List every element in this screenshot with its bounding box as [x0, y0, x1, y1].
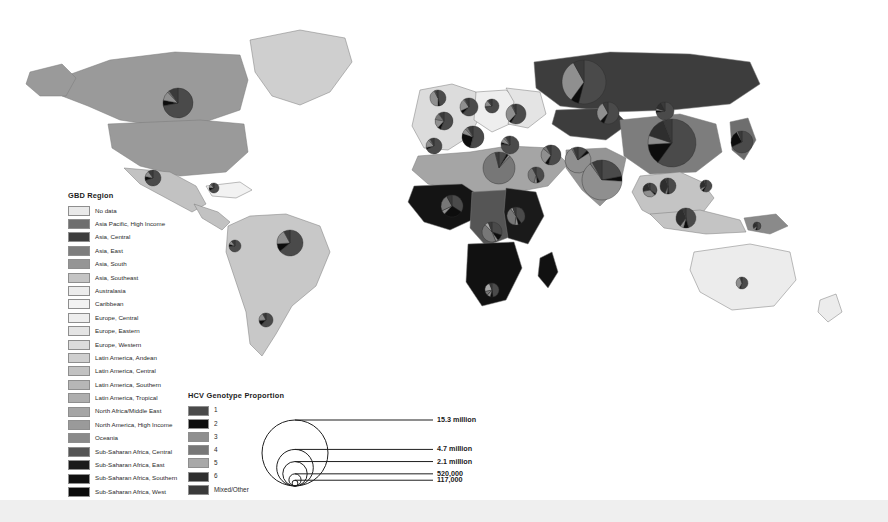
gbd-region-legend: GBD Region No dataAsia Pacific, High Inc…: [68, 191, 200, 499]
gbd-legend-label: Caribbean: [95, 301, 124, 307]
gbd-legend-item: Latin America, Tropical: [68, 391, 200, 404]
country-pie-chart: [460, 98, 478, 116]
country-pie-chart: [562, 60, 606, 104]
bubble-size-legend: 15.3 million4.7 million2.1 million520,00…: [255, 398, 495, 490]
gbd-legend-label: North America, High Income: [95, 422, 172, 428]
hcv-legend-swatch: [188, 419, 209, 429]
country-pie-chart: [676, 208, 696, 228]
gbd-legend-swatch: [68, 340, 90, 350]
hcv-legend-label: 3: [214, 434, 218, 440]
country-pie-chart: [656, 102, 674, 120]
gbd-legend-swatch: [68, 380, 90, 390]
country-pie-chart: [426, 138, 442, 154]
gbd-legend-item: Latin America, Andean: [68, 351, 200, 364]
gbd-legend-label: Latin America, Tropical: [95, 395, 158, 401]
gbd-legend-label: Asia Pacific, High Income: [95, 221, 165, 227]
hcv-legend-swatch: [188, 472, 209, 482]
gbd-legend-item: Latin America, Central: [68, 365, 200, 378]
gbd-legend-swatch: [68, 286, 90, 296]
gbd-legend-item: Asia Pacific, High Income: [68, 217, 200, 230]
gbd-legend-item: Asia, Central: [68, 231, 200, 244]
gbd-legend-item: Europe, Western: [68, 338, 200, 351]
country-pie-chart: [700, 180, 712, 192]
country-pie-chart: [660, 178, 676, 194]
gbd-legend-label: Latin America, Central: [95, 368, 156, 374]
gbd-legend-item: Europe, Eastern: [68, 325, 200, 338]
country-pie-chart: [582, 160, 622, 200]
country-pie-chart: [209, 183, 219, 193]
gbd-legend-item: Sub-Saharan Africa, Central: [68, 445, 200, 458]
gbd-legend-label: Asia, East: [95, 248, 123, 254]
gbd-legend-label: North Africa/Middle East: [95, 408, 161, 414]
hcv-legend-label: Mixed/Other: [214, 487, 249, 493]
gbd-legend-item: Oceania: [68, 432, 200, 445]
gbd-legend-label: Latin America, Andean: [95, 355, 157, 361]
hcv-legend-label: 2: [214, 421, 218, 427]
gbd-legend-item: Sub-Saharan Africa, East: [68, 458, 200, 471]
gbd-legend-label: Sub-Saharan Africa, West: [95, 489, 166, 495]
gbd-legend-swatch: [68, 246, 90, 256]
gbd-legend-swatch: [68, 273, 90, 283]
gbd-legend-item: Latin America, Southern: [68, 378, 200, 391]
hcv-legend-label: 5: [214, 460, 218, 466]
gbd-legend-label: Oceania: [95, 435, 118, 441]
gbd-legend-swatch: [68, 420, 90, 430]
size-legend-label: 2.1 million: [437, 457, 472, 466]
country-pie-chart: [506, 104, 526, 124]
country-pie-chart: [736, 277, 748, 289]
gbd-legend-item: Sub-Saharan Africa, West: [68, 485, 200, 498]
gbd-legend-label: Europe, Central: [95, 315, 138, 321]
gbd-legend-item: Europe, Central: [68, 311, 200, 324]
gbd-legend-item: Asia, South: [68, 258, 200, 271]
gbd-legend-label: Europe, Western: [95, 342, 141, 348]
hcv-legend-swatch: [188, 406, 209, 416]
gbd-legend-label: Asia, Central: [95, 234, 130, 240]
country-pie-chart: [501, 136, 519, 154]
gbd-legend-swatch: [68, 407, 90, 417]
gbd-legend-label: No data: [95, 208, 117, 214]
country-pie-chart: [483, 152, 515, 184]
country-pie-chart: [259, 313, 273, 327]
country-pie-chart: [441, 195, 463, 217]
gbd-legend-rows: No dataAsia Pacific, High IncomeAsia, Ce…: [68, 204, 200, 499]
hcv-legend-swatch: [188, 485, 209, 495]
country-pie-chart: [163, 88, 193, 118]
country-pie-chart: [507, 207, 525, 225]
gbd-legend-swatch: [68, 299, 90, 309]
size-legend-circle: [262, 420, 328, 486]
hcv-legend-swatch: [188, 445, 209, 455]
gbd-legend-swatch: [68, 326, 90, 336]
country-pie-chart: [430, 90, 446, 106]
gbd-legend-swatch: [68, 366, 90, 376]
country-pie-chart: [229, 240, 241, 252]
gbd-legend-label: Asia, South: [95, 261, 127, 267]
size-legend-label: 117,000: [437, 475, 463, 484]
gbd-legend-swatch: [68, 487, 90, 497]
gbd-legend-item: Asia, Southeast: [68, 271, 200, 284]
gbd-legend-swatch: [68, 433, 90, 443]
gbd-legend-item: Australasia: [68, 284, 200, 297]
gbd-legend-item: Caribbean: [68, 298, 200, 311]
country-pie-chart: [753, 222, 761, 230]
gbd-legend-item: Asia, East: [68, 244, 200, 257]
gbd-legend-swatch: [68, 460, 90, 470]
country-pie-chart: [648, 119, 696, 167]
country-pie-chart: [528, 167, 544, 183]
gbd-legend-label: Europe, Eastern: [95, 328, 140, 334]
region-antarctica: [0, 500, 888, 522]
gbd-legend-label: Sub-Saharan Africa, Southern: [95, 475, 177, 481]
hcv-legend-label: 1: [214, 407, 218, 413]
country-pie-chart: [731, 131, 753, 153]
size-legend-label: 4.7 million: [437, 444, 472, 453]
gbd-legend-swatch: [68, 313, 90, 323]
gbd-legend-item: Sub-Saharan Africa, Southern: [68, 472, 200, 485]
gbd-legend-swatch: [68, 206, 90, 216]
gbd-legend-label: Sub-Saharan Africa, Central: [95, 449, 172, 455]
gbd-legend-item: North America, High Income: [68, 418, 200, 431]
country-pie-chart: [485, 99, 499, 113]
size-legend-circle: [292, 480, 298, 486]
figure-root: GBD Region No dataAsia Pacific, High Inc…: [0, 0, 888, 522]
country-pie-chart: [462, 126, 484, 148]
size-legend-label: 15.3 million: [437, 415, 476, 424]
gbd-legend-swatch: [68, 219, 90, 229]
